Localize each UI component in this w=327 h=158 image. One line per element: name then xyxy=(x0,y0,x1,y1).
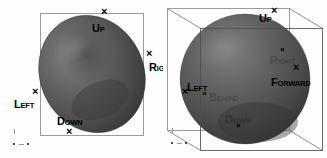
label-right: RIGHT xyxy=(149,58,163,74)
label-right: RIGHT xyxy=(270,51,295,67)
label-up-sub: P xyxy=(100,25,105,34)
axis-tick-horizontal xyxy=(19,144,24,145)
axis-tick-vertical xyxy=(14,129,15,134)
label-up-cap: U xyxy=(259,12,267,24)
label-right-sub: IGHT xyxy=(278,57,295,66)
axis-origin-dot xyxy=(171,142,173,144)
label-down: DOWN xyxy=(57,112,82,128)
label-left-sub: EFT xyxy=(21,101,35,110)
figure-root: × × × × UP RIGHT LEFT DOWN xyxy=(0,0,327,158)
panel-left-scene xyxy=(0,0,163,158)
label-right-cap: R xyxy=(149,61,157,73)
label-up: UP xyxy=(92,19,105,35)
label-left-sub: EFT xyxy=(194,84,208,93)
label-behind-cap: B xyxy=(209,91,217,103)
perspective-3d-cube-panel: × × × × × × UP RIGHT FORWARD LEFT BEHIND xyxy=(163,0,327,158)
label-down-cap: D xyxy=(225,113,233,125)
label-left: LEFT xyxy=(14,95,34,111)
label-behind-sub: EHIND xyxy=(217,94,239,103)
label-down-sub: OWN xyxy=(65,118,83,127)
label-forward-sub: ORWARD xyxy=(278,79,311,88)
axis-tick-vertical xyxy=(172,128,173,133)
label-down-sub: OWN xyxy=(233,116,251,125)
label-left: LEFT xyxy=(187,78,207,94)
label-behind: BEHIND xyxy=(209,88,239,104)
axis-end-dot xyxy=(185,142,187,144)
axis-origin-dot xyxy=(13,143,15,145)
label-right-cap: R xyxy=(270,54,278,66)
axis-tick-horizontal xyxy=(177,143,182,144)
label-down: DOWN xyxy=(225,110,250,126)
marker-up-icon: × xyxy=(271,5,277,16)
panel-right-stage: × × × × × × UP RIGHT FORWARD LEFT BEHIND xyxy=(163,0,327,158)
label-up-sub: P xyxy=(267,15,272,24)
axis-end-dot xyxy=(27,143,29,145)
label-up-cap: U xyxy=(92,22,100,34)
orthographic-2d-frame-panel: × × × × UP RIGHT LEFT DOWN xyxy=(0,0,163,158)
label-up: UP xyxy=(259,9,272,25)
label-down-cap: D xyxy=(57,115,65,127)
marker-up-icon: × xyxy=(101,6,107,17)
panel-left-stage: × × × × UP RIGHT LEFT DOWN xyxy=(0,0,163,158)
label-forward: FORWARD xyxy=(271,73,310,89)
